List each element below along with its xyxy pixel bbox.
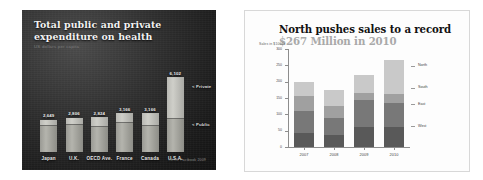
y-axis-tick-label: 250 <box>262 63 282 67</box>
right-chart-title-highlight: $267 Million in 2010 <box>279 35 397 47</box>
bar-segment-private <box>167 77 184 118</box>
bar-france <box>116 113 133 152</box>
left-chart-title: Total public and private expenditure on … <box>34 19 202 42</box>
north-sales-chart: North pushes sales to a record $267 Mill… <box>244 10 470 172</box>
bar-segment-west <box>294 133 314 147</box>
y-axis-tick-label: 50 <box>262 128 282 132</box>
bar-segment-west <box>324 135 344 147</box>
bar-segment-private <box>142 113 159 125</box>
x-axis-tick <box>304 147 305 150</box>
legend-connector-east <box>411 104 415 105</box>
bar-segment-east <box>324 118 344 135</box>
x-axis-tick <box>364 147 365 150</box>
legend-connector-north <box>411 66 415 67</box>
right-chart-title: North pushes sales to a record $267 Mill… <box>279 23 459 48</box>
left-slide: Total public and private expenditure on … <box>0 0 232 180</box>
public-annotation: < Public <box>192 122 210 127</box>
bar-2010 <box>384 60 404 147</box>
bar-segment-north <box>294 82 314 97</box>
bar-segment-public <box>167 118 184 152</box>
x-axis-line <box>288 147 410 148</box>
y-axis-tick-label: 150 <box>262 96 282 100</box>
y-axis-tick <box>285 147 289 148</box>
y-axis-tick <box>285 131 289 132</box>
bar-2008 <box>324 90 344 147</box>
bar-segment-south <box>324 106 344 117</box>
legend-label-south: South <box>418 85 428 89</box>
bar-u-s-a <box>167 77 184 152</box>
x-axis-label-2008: 2008 <box>319 152 349 157</box>
bar-segment-west <box>384 127 404 147</box>
bar-canada <box>142 113 159 152</box>
y-axis-tick <box>285 65 289 66</box>
bar-segment-private <box>91 117 108 126</box>
y-axis-tick <box>285 49 289 50</box>
x-axis-label-u-s-a: U.S.A. <box>155 156 195 161</box>
health-expenditure-chart: Total public and private expenditure on … <box>22 10 216 170</box>
bar-value-label: 6,102 <box>158 71 192 76</box>
bar-u-k <box>66 118 83 152</box>
x-axis-label-2010: 2010 <box>379 152 409 157</box>
bar-segment-north <box>354 75 374 93</box>
y-axis-tick <box>285 82 289 83</box>
bar-segment-public <box>40 125 57 152</box>
x-axis-tick <box>394 147 395 150</box>
bar-value-label: 3,166 <box>133 107 167 112</box>
bar-2009 <box>354 75 374 147</box>
right-slide: North pushes sales to a record $267 Mill… <box>232 0 483 180</box>
bar-japan <box>40 120 57 152</box>
legend-connector-south <box>411 88 415 89</box>
x-axis-tick <box>334 147 335 150</box>
right-chart-title-main: North pushes sales to a record <box>279 23 451 35</box>
bar-segment-south <box>294 96 314 110</box>
bar-segment-public <box>66 124 83 152</box>
x-axis-label-2007: 2007 <box>289 152 319 157</box>
right-plot-area <box>289 49 409 147</box>
legend-label-east: East <box>418 102 425 106</box>
private-annotation: < Private <box>192 84 211 89</box>
left-chart-subtitle: US dollars per capita <box>34 44 194 50</box>
bar-segment-public <box>91 126 108 152</box>
y-axis-tick-label: 100 <box>262 112 282 116</box>
bar-segment-east <box>354 100 374 127</box>
y-axis-tick-label: 200 <box>262 79 282 83</box>
legend-label-west: West <box>418 124 426 128</box>
bar-segment-east <box>384 103 404 128</box>
right-y-axis-title: Sales in $1000s <box>259 42 285 46</box>
bar-oecd-ave <box>91 117 108 152</box>
bar-segment-east <box>294 111 314 134</box>
left-plot-area <box>36 54 188 152</box>
bar-segment-north <box>324 90 344 107</box>
bar-2007 <box>294 82 314 147</box>
bar-segment-north <box>384 60 404 94</box>
bar-segment-south <box>384 94 404 103</box>
bar-segment-west <box>354 127 374 147</box>
y-axis-tick-label: 0 <box>262 145 282 149</box>
y-axis-tick-label: 300 <box>262 47 282 51</box>
y-axis-tick <box>285 114 289 115</box>
bar-segment-private <box>116 113 133 122</box>
y-axis-tick <box>285 98 289 99</box>
x-axis-label-2009: 2009 <box>349 152 379 157</box>
legend-connector-west <box>411 126 415 127</box>
slide-pair-canvas: Total public and private expenditure on … <box>0 0 483 180</box>
legend-label-north: North <box>418 63 427 67</box>
bar-segment-private <box>66 118 83 125</box>
bar-segment-public <box>142 125 159 152</box>
bar-segment-public <box>116 122 133 152</box>
